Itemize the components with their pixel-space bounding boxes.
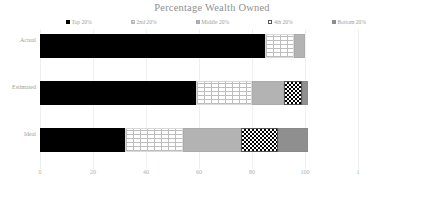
x-tick-label-100: 100 [301,169,310,175]
category-label-actual: Actual [0,36,36,44]
bar-segment-estimated-bottom-20[interactable] [302,81,307,105]
bar-segment-ideal-top-20[interactable] [40,128,125,152]
x-tick-label-40: 40 [143,169,149,175]
chart-container: Percentage Wealth Owned Top 20% 2nd 20% … [0,0,424,203]
bar-segment-actual-top-20[interactable] [40,34,265,58]
bar-segment-ideal-4th-20[interactable] [241,128,278,152]
legend-item-top-20[interactable]: Top 20% [66,19,92,25]
gridline-120 [358,29,359,169]
legend-swatch-middle-20-icon [196,20,200,24]
legend-label-2nd-20: 2nd 20% [137,19,157,25]
category-label-estimated: Estimated [0,83,36,91]
x-tick-label-0: 0 [39,169,42,175]
bar-segment-ideal-bottom-20[interactable] [278,128,307,152]
legend-swatch-top-20-icon [66,20,70,24]
legend-item-middle-20[interactable]: Middle 20% [196,19,229,25]
x-tick-label-60: 60 [196,169,202,175]
legend-swatch-bottom-20-icon [332,20,336,24]
bar-segment-actual-2nd-20[interactable] [265,34,294,58]
bar-segment-estimated-2nd-20[interactable] [196,81,252,105]
category-label-ideal: Ideal [0,130,36,138]
x-tick-label-80: 80 [249,169,255,175]
bar-segment-ideal-2nd-20[interactable] [125,128,183,152]
bar-segment-estimated-middle-20[interactable] [252,81,284,105]
x-axis: 0204060801001 [0,169,424,183]
legend-label-4th-20: 4th 20% [274,19,293,25]
bar-segment-estimated-4th-20[interactable] [284,81,303,105]
legend-label-bottom-20: Bottom 20% [338,19,366,25]
legend-label-middle-20: Middle 20% [201,19,229,25]
legend-item-4th-20[interactable]: 4th 20% [268,19,292,25]
plot-area [40,29,358,169]
bar-row-ideal [40,128,358,152]
legend-swatch-4th-20-icon [268,20,272,24]
legend-label-top-20: Top 20% [72,19,92,25]
legend-item-2nd-20[interactable]: 2nd 20% [131,19,157,25]
legend-item-bottom-20[interactable]: Bottom 20% [332,19,366,25]
legend-swatch-2nd-20-icon [131,20,135,24]
bar-segment-ideal-middle-20[interactable] [183,128,241,152]
bar-row-actual [40,34,358,58]
bar-segment-estimated-top-20[interactable] [40,81,196,105]
chart-legend: Top 20% 2nd 20% Middle 20% 4th 20% Botto… [66,16,366,27]
x-tick-label-20: 20 [90,169,96,175]
bar-segment-actual-middle-20[interactable] [294,34,305,58]
x-tick-label-120: 1 [357,169,360,175]
bar-row-estimated [40,81,358,105]
chart-title: Percentage Wealth Owned [0,2,424,13]
